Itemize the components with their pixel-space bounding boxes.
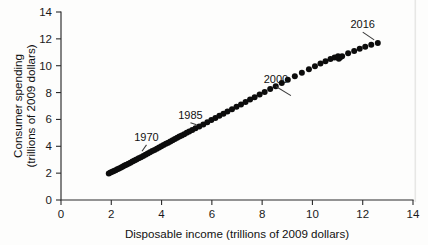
y-tick-label: 14 <box>39 6 52 18</box>
x-axis-title: Disposable income (trillions of 2009 dol… <box>125 227 349 240</box>
data-point <box>299 70 305 76</box>
x-tick-label: 14 <box>407 208 420 220</box>
data-point <box>339 53 345 59</box>
y-tick-label: 6 <box>46 113 52 125</box>
scan-edge-artifact <box>415 0 417 202</box>
y-tick-label: 0 <box>46 194 52 206</box>
x-tick-label: 2 <box>108 208 114 220</box>
scatter-chart-figure: 02468101214 02468101214 1970198520002016… <box>0 0 428 245</box>
data-point <box>345 50 351 56</box>
x-tick-label: 12 <box>356 208 369 220</box>
y-tick-label: 12 <box>39 33 52 45</box>
annotation-label: 1970 <box>134 131 158 143</box>
annotation-leader-line <box>363 32 374 40</box>
y-axis-title-line1: Consumer spending <box>11 54 24 158</box>
y-axis-ticks: 02468101214 <box>39 6 61 206</box>
y-tick-label: 2 <box>46 167 52 179</box>
data-point <box>262 89 268 95</box>
annotation-label: 1985 <box>178 109 202 121</box>
data-point <box>375 40 381 46</box>
data-points <box>106 40 381 177</box>
annotation-label: 2000 <box>264 73 288 85</box>
x-axis-ticks: 02468101214 <box>58 200 420 220</box>
chart-canvas: 02468101214 02468101214 1970198520002016… <box>0 0 428 245</box>
x-tick-label: 4 <box>158 208 165 220</box>
data-point <box>362 44 368 50</box>
x-tick-label: 6 <box>209 208 215 220</box>
annotation-group: 1970198520002016 <box>134 18 375 151</box>
x-tick-label: 0 <box>58 208 64 220</box>
data-point <box>267 86 273 92</box>
annotation-label: 2016 <box>350 18 374 30</box>
data-point <box>351 48 357 54</box>
data-point <box>357 46 363 52</box>
y-tick-label: 8 <box>46 87 52 99</box>
data-point <box>312 63 318 69</box>
x-tick-label: 8 <box>259 208 265 220</box>
annotation-leader-line <box>276 87 291 96</box>
data-point <box>368 42 374 48</box>
annotation-leader-line <box>190 123 196 125</box>
data-point <box>306 66 312 72</box>
y-tick-label: 4 <box>46 140 53 152</box>
data-point <box>292 73 298 79</box>
y-tick-label: 10 <box>39 60 52 72</box>
x-tick-label: 10 <box>306 208 319 220</box>
annotation-leader-line <box>142 145 146 151</box>
y-axis-title-line2: (trillions of 2009 dollars) <box>24 44 37 167</box>
